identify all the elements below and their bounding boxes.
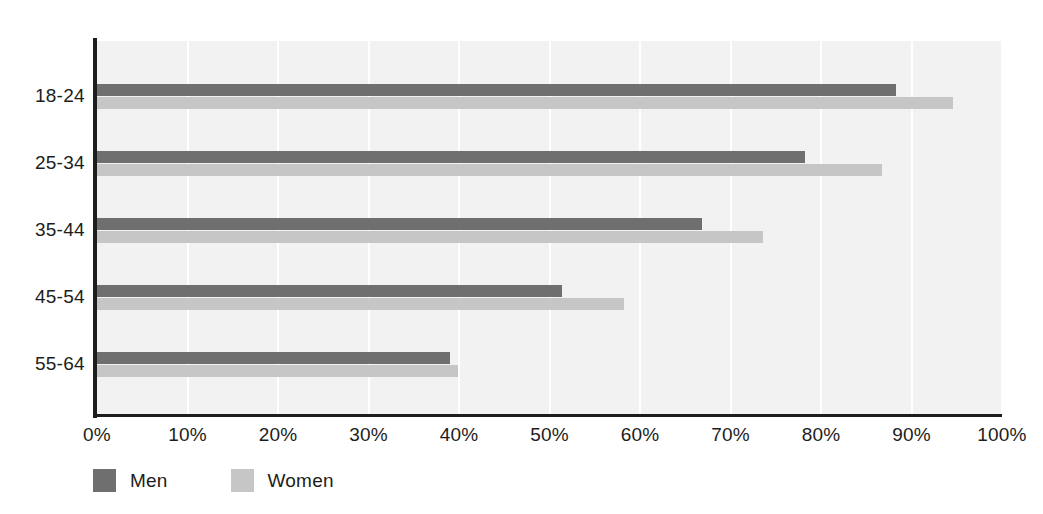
category-label-55-64: 55-64 (0, 353, 85, 375)
x-tick-90%: 90% (892, 424, 931, 446)
x-tick-30%: 30% (349, 424, 388, 446)
legend-label-men: Men (130, 470, 168, 492)
bar-women-25-34 (97, 164, 882, 176)
bar-chart: 18-2425-3435-4445-5455-64 0%10%20%30%40%… (0, 0, 1043, 514)
x-axis-tick-labels: 0%10%20%30%40%50%60%70%80%90%100% (0, 424, 1043, 452)
bar-women-18-24 (97, 97, 953, 109)
legend-swatch-women-icon (231, 469, 254, 492)
x-tick-70%: 70% (711, 424, 750, 446)
x-tick-40%: 40% (440, 424, 479, 446)
x-tick-0%: 0% (83, 424, 111, 446)
category-label-25-34: 25-34 (0, 152, 85, 174)
x-tick-20%: 20% (259, 424, 298, 446)
x-tick-50%: 50% (530, 424, 569, 446)
category-label-18-24: 18-24 (0, 85, 85, 107)
x-tick-100%: 100% (977, 424, 1026, 446)
bar-men-55-64 (97, 352, 450, 364)
x-tick-60%: 60% (621, 424, 660, 446)
x-tick-10%: 10% (168, 424, 207, 446)
y-axis-category-labels: 18-2425-3435-4445-5455-64 (0, 41, 85, 415)
bar-women-55-64 (97, 365, 458, 377)
bar-men-35-44 (97, 218, 702, 230)
category-label-45-54: 45-54 (0, 286, 85, 308)
x-tick-80%: 80% (802, 424, 841, 446)
bar-women-45-54 (97, 298, 624, 310)
bar-men-18-24 (97, 84, 896, 96)
category-label-35-44: 35-44 (0, 219, 85, 241)
legend: MenWomen (93, 469, 334, 492)
legend-item-men[interactable]: Men (93, 469, 168, 492)
bar-men-25-34 (97, 151, 805, 163)
bar-men-45-54 (97, 285, 562, 297)
legend-item-women[interactable]: Women (231, 469, 334, 492)
bar-women-35-44 (97, 231, 763, 243)
legend-swatch-men-icon (93, 469, 116, 492)
legend-label-women: Women (268, 470, 334, 492)
